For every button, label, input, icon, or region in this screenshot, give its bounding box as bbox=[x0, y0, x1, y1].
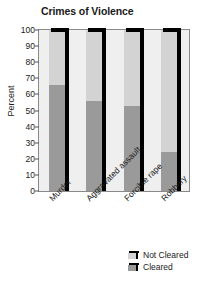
y-axis-tick-mark bbox=[35, 174, 39, 175]
y-axis-tick-mark bbox=[35, 191, 39, 192]
y-axis-tick-label: 100 bbox=[13, 25, 35, 35]
y-axis-tick-label: 50 bbox=[13, 106, 35, 116]
stacked-bar[interactable] bbox=[86, 30, 102, 191]
y-axis-tick-mark bbox=[35, 158, 39, 159]
bar-3d-top-cap bbox=[88, 28, 106, 32]
bar-3d-top-cap bbox=[51, 28, 69, 32]
y-axis-tick-mark bbox=[35, 78, 39, 79]
bar-3d-side-shadow bbox=[102, 30, 106, 191]
y-axis-tick-label: 40 bbox=[13, 122, 35, 132]
legend-swatch-side bbox=[136, 252, 138, 259]
bar-group bbox=[86, 30, 106, 191]
y-axis-tick-label: 80 bbox=[13, 57, 35, 67]
chart-legend: Not ClearedCleared bbox=[128, 250, 188, 274]
legend-swatch-face bbox=[128, 265, 136, 271]
bar-3d-side-shadow bbox=[177, 30, 181, 191]
bar-segment-not-cleared[interactable] bbox=[124, 30, 140, 106]
legend-item[interactable]: Cleared bbox=[128, 262, 188, 272]
y-axis-tick-label: 20 bbox=[13, 154, 35, 164]
y-axis-tick-mark bbox=[35, 46, 39, 47]
y-axis-tick-label: 70 bbox=[13, 73, 35, 83]
bar-segment-not-cleared[interactable] bbox=[86, 30, 102, 101]
chart-container: Crimes of Violence Percent 0102030405060… bbox=[0, 0, 214, 283]
y-axis-tick-label: 30 bbox=[13, 138, 35, 148]
y-axis-tick-label: 0 bbox=[13, 186, 35, 196]
y-axis-tick-mark bbox=[35, 110, 39, 111]
legend-item-label: Cleared bbox=[143, 262, 173, 272]
bar-segment-cleared[interactable] bbox=[86, 101, 102, 191]
legend-swatch-icon bbox=[128, 251, 139, 259]
y-axis-tick-label: 90 bbox=[13, 41, 35, 51]
bar-segment-cleared[interactable] bbox=[49, 85, 65, 191]
y-axis-tick-mark bbox=[35, 94, 39, 95]
y-axis-tick-mark bbox=[35, 142, 39, 143]
legend-item[interactable]: Not Cleared bbox=[128, 250, 188, 260]
stacked-bar[interactable] bbox=[49, 30, 65, 191]
y-axis-tick-label: 10 bbox=[13, 170, 35, 180]
legend-swatch-icon bbox=[128, 263, 139, 271]
legend-swatch-side bbox=[136, 264, 138, 271]
bar-3d-top-cap bbox=[163, 28, 181, 32]
legend-item-label: Not Cleared bbox=[143, 250, 188, 260]
bar-3d-side-shadow bbox=[140, 30, 144, 191]
y-axis-tick-mark bbox=[35, 30, 39, 31]
y-axis-tick-label: 60 bbox=[13, 89, 35, 99]
bar-segment-not-cleared[interactable] bbox=[161, 30, 177, 152]
y-axis-tick-mark bbox=[35, 126, 39, 127]
bar-group bbox=[49, 30, 69, 191]
bar-3d-side-shadow bbox=[65, 30, 69, 191]
legend-swatch-face bbox=[128, 253, 136, 259]
chart-title: Crimes of Violence bbox=[41, 5, 171, 17]
bar-segment-not-cleared[interactable] bbox=[49, 30, 65, 85]
bar-3d-top-cap bbox=[126, 28, 144, 32]
y-axis-tick-mark bbox=[35, 62, 39, 63]
